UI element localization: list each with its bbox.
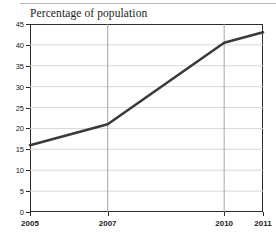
- x-tick-label: 2005: [21, 219, 39, 228]
- y-tick-mark: [26, 108, 30, 109]
- chart-figure: Percentage of population 051015202530354…: [0, 0, 276, 233]
- y-tick-mark: [26, 191, 30, 192]
- x-tick-mark: [224, 212, 225, 216]
- y-tick-mark: [26, 149, 30, 150]
- y-tick-label: 20: [2, 124, 24, 133]
- y-tick-mark: [26, 128, 30, 129]
- y-tick-label: 10: [2, 166, 24, 175]
- y-tick-label: 30: [2, 82, 24, 91]
- y-tick-mark: [26, 170, 30, 171]
- y-tick-label: 25: [2, 103, 24, 112]
- y-tick-label: 35: [2, 61, 24, 70]
- x-tick-mark: [108, 212, 109, 216]
- title-top-rule: [20, 3, 276, 4]
- y-tick-label: 15: [2, 145, 24, 154]
- y-tick-mark: [26, 24, 30, 25]
- x-tick-mark: [263, 212, 264, 216]
- chart-title: Percentage of population: [30, 6, 147, 20]
- y-tick-mark: [26, 87, 30, 88]
- x-tick-label: 2011: [254, 219, 271, 228]
- plot-area: [30, 24, 263, 212]
- x-tick-mark: [30, 212, 31, 216]
- y-tick-label: 40: [2, 40, 24, 49]
- x-tick-label: 2007: [99, 219, 117, 228]
- y-tick-label: 0: [2, 208, 24, 217]
- x-tick-label: 2010: [215, 219, 233, 228]
- grid-lines: [30, 24, 263, 212]
- y-tick-mark: [26, 45, 30, 46]
- y-tick-label: 5: [2, 187, 24, 196]
- y-tick-label: 45: [2, 20, 24, 29]
- y-tick-mark: [26, 66, 30, 67]
